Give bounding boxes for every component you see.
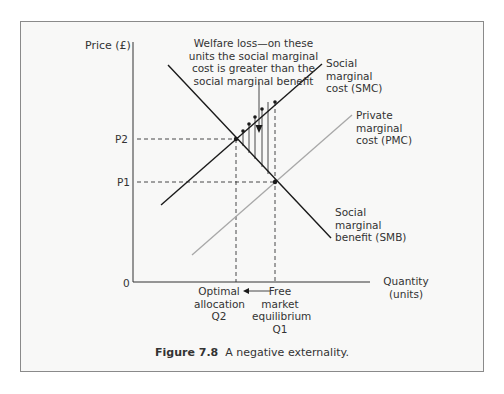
caption-text: A negative externality. xyxy=(225,346,349,359)
annotation-line1: Welfare loss—on these xyxy=(186,37,321,50)
q2-line2: allocation xyxy=(194,298,244,311)
figure-caption: Figure 7.8 A negative externality. xyxy=(0,346,504,359)
pmc-label: Private marginal cost (PMC) xyxy=(356,109,412,147)
q1-line4: Q1 xyxy=(252,323,308,336)
q2-label: Optimal allocation Q2 xyxy=(194,285,244,323)
smc-label: Social marginal cost (SMC) xyxy=(326,57,382,95)
welfare-loss-annotation: Welfare loss—on these units the social m… xyxy=(186,37,321,87)
q1-line3: equilibrium xyxy=(252,310,308,323)
caption-number: Figure 7.8 xyxy=(155,346,218,359)
pmc-line3: cost (PMC) xyxy=(356,134,412,147)
smc-line3: cost (SMC) xyxy=(326,82,382,95)
smc-line2: marginal xyxy=(326,70,382,83)
p2-label: P2 xyxy=(115,133,128,146)
optimal-point xyxy=(234,137,238,141)
x-axis-label-line2: (units) xyxy=(376,288,436,301)
p1-label: P1 xyxy=(117,176,130,189)
smb-curve xyxy=(168,65,331,238)
annotation-line4: social marginal benefit xyxy=(186,75,321,88)
x-axis-label: Quantity (units) xyxy=(376,275,436,300)
smb-line1: Social xyxy=(335,206,406,219)
smb-label: Social marginal benefit (SMB) xyxy=(335,206,406,244)
q2-line3: Q2 xyxy=(194,310,244,323)
market-point xyxy=(273,180,277,184)
y-axis-label: Price (£) xyxy=(85,40,131,53)
origin-label: 0 xyxy=(123,277,130,290)
arrow-head-icon xyxy=(256,125,263,133)
smc-line1: Social xyxy=(326,57,382,70)
guide-lines xyxy=(137,102,275,282)
q1-line2: market xyxy=(252,298,308,311)
annotation-line3: cost is greater than the xyxy=(186,62,321,75)
annotation-line2: units the social marginal xyxy=(186,50,321,63)
q2-line1: Optimal xyxy=(194,285,244,298)
smb-line3: benefit (SMB) xyxy=(335,231,406,244)
x-axis-label-line1: Quantity xyxy=(376,275,436,288)
smb-line2: marginal xyxy=(335,219,406,232)
q1-line1: Free xyxy=(252,285,308,298)
pmc-line2: marginal xyxy=(356,122,412,135)
pmc-line1: Private xyxy=(356,109,412,122)
welfare-loss-hatching xyxy=(243,102,268,174)
q1-label: Free market equilibrium Q1 xyxy=(252,285,308,335)
